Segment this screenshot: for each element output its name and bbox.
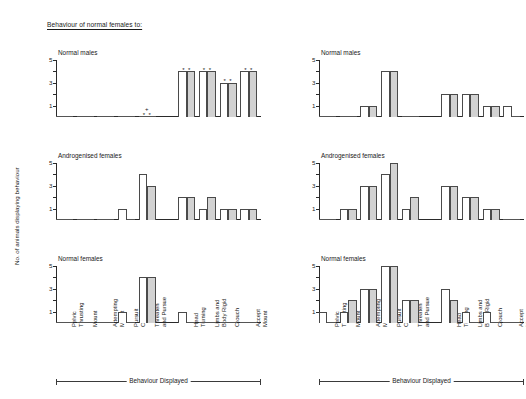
bar-grey bbox=[249, 322, 257, 323]
bar-group bbox=[77, 219, 94, 220]
bar-white bbox=[483, 209, 491, 220]
bar-grey bbox=[410, 197, 418, 220]
y-axis-tick bbox=[53, 163, 56, 164]
bar-white bbox=[220, 83, 228, 117]
y-axis-tick-label: 1 bbox=[312, 205, 315, 211]
bar-group bbox=[199, 71, 216, 117]
y-axis-tick bbox=[53, 277, 56, 278]
bar-group bbox=[118, 116, 135, 117]
bar-white bbox=[240, 209, 248, 220]
bar-group bbox=[381, 163, 398, 220]
panel-title: Normal males bbox=[321, 49, 360, 56]
bar-group bbox=[360, 106, 377, 117]
y-axis-tick bbox=[53, 289, 56, 290]
bar-white bbox=[381, 266, 389, 323]
y-axis-tick-label: 3 bbox=[312, 286, 315, 292]
bar-grey bbox=[147, 277, 155, 323]
bar-group bbox=[340, 209, 357, 220]
y-axis-tick-label: 5 bbox=[312, 263, 315, 269]
bar-grey bbox=[64, 322, 72, 323]
bar-group bbox=[240, 209, 257, 220]
bar-grey bbox=[470, 197, 478, 220]
bar-group bbox=[483, 106, 500, 117]
bar-white bbox=[402, 300, 410, 323]
y-axis-tick bbox=[316, 94, 319, 95]
bar-white bbox=[139, 277, 147, 323]
bar-group bbox=[340, 116, 357, 117]
chart-panel: Normal females135 bbox=[56, 266, 261, 323]
bar-grey bbox=[64, 219, 72, 220]
bar-white bbox=[441, 94, 449, 117]
bar-grey bbox=[207, 322, 215, 323]
panel-title: Normal females bbox=[58, 255, 103, 262]
bar-white bbox=[56, 322, 64, 323]
bar-grey bbox=[127, 322, 135, 323]
x-axis-label-block: Pelvic ThrustingMountAttempting MountPur… bbox=[319, 327, 524, 397]
bar-grey bbox=[491, 209, 499, 220]
bar-grey bbox=[106, 322, 114, 323]
bar-group bbox=[483, 209, 500, 220]
bar-white bbox=[97, 219, 105, 220]
bar-white bbox=[462, 312, 470, 323]
bar-grey bbox=[327, 322, 335, 323]
bar-group bbox=[199, 322, 216, 323]
y-axis-tick bbox=[316, 289, 319, 290]
bar-group bbox=[139, 277, 156, 323]
y-axis-tick bbox=[316, 209, 319, 210]
y-axis-tick bbox=[316, 300, 319, 301]
bar-grey bbox=[390, 163, 398, 220]
bar-grey bbox=[106, 219, 114, 220]
y-axis-tick-label: 1 bbox=[312, 102, 315, 108]
bar-grey bbox=[369, 289, 377, 323]
y-axis-tick-label: 3 bbox=[312, 183, 315, 189]
bar-group bbox=[56, 116, 73, 117]
bar-group bbox=[441, 289, 458, 323]
bar-white bbox=[319, 116, 327, 117]
bar-white bbox=[360, 106, 368, 117]
bar-grey bbox=[187, 71, 195, 117]
y-axis-label: No. of animals displaying behaviour bbox=[13, 167, 20, 265]
bar-white bbox=[319, 219, 327, 220]
bar-grey bbox=[512, 322, 520, 323]
bar-grey bbox=[410, 300, 418, 323]
bar-group bbox=[199, 197, 216, 220]
y-axis-tick bbox=[316, 266, 319, 267]
bar-white bbox=[462, 197, 470, 220]
y-axis-tick bbox=[316, 277, 319, 278]
x-axis-caption: Behaviour Displayed bbox=[126, 377, 191, 384]
bar-grey bbox=[85, 116, 93, 117]
y-axis bbox=[319, 60, 320, 117]
bar-grey bbox=[64, 116, 72, 117]
bar-group bbox=[178, 312, 195, 323]
bar-white bbox=[381, 71, 389, 117]
y-axis-tick-label: 1 bbox=[312, 308, 315, 314]
bar-grey bbox=[327, 219, 335, 220]
bar-white bbox=[56, 116, 64, 117]
bar-white bbox=[381, 174, 389, 220]
y-axis-tick bbox=[316, 83, 319, 84]
bar-white bbox=[56, 219, 64, 220]
bar-grey bbox=[85, 322, 93, 323]
bar-white bbox=[240, 322, 248, 323]
y-axis bbox=[56, 266, 57, 323]
bar-grey bbox=[127, 219, 135, 220]
bar-grey bbox=[450, 94, 458, 117]
bar-group bbox=[319, 219, 336, 220]
bar-white bbox=[441, 186, 449, 220]
bar-grey bbox=[348, 116, 356, 117]
y-axis-tick bbox=[316, 186, 319, 187]
chart-panel: Androgenised females135 bbox=[56, 163, 261, 220]
bar-group bbox=[56, 219, 73, 220]
bar-group bbox=[503, 219, 520, 220]
bar-grey bbox=[228, 209, 236, 220]
y-axis-tick-label: 1 bbox=[49, 308, 52, 314]
bar-grey bbox=[410, 116, 418, 117]
y-axis-tick bbox=[53, 312, 56, 313]
y-axis-tick bbox=[53, 300, 56, 301]
y-axis-tick-label: 3 bbox=[49, 80, 52, 86]
y-axis-tick bbox=[316, 174, 319, 175]
y-axis-tick bbox=[53, 197, 56, 198]
y-axis-tick bbox=[53, 186, 56, 187]
y-axis-tick bbox=[53, 174, 56, 175]
bar-white bbox=[360, 186, 368, 220]
